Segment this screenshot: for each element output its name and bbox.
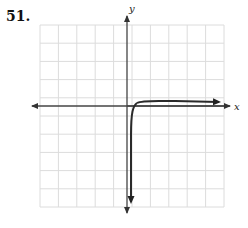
x-axis-label: x — [234, 101, 240, 112]
y-axis-label: y — [128, 3, 135, 14]
curve-upper-branch — [137, 101, 219, 103]
coordinate-plane: x y — [0, 0, 248, 228]
